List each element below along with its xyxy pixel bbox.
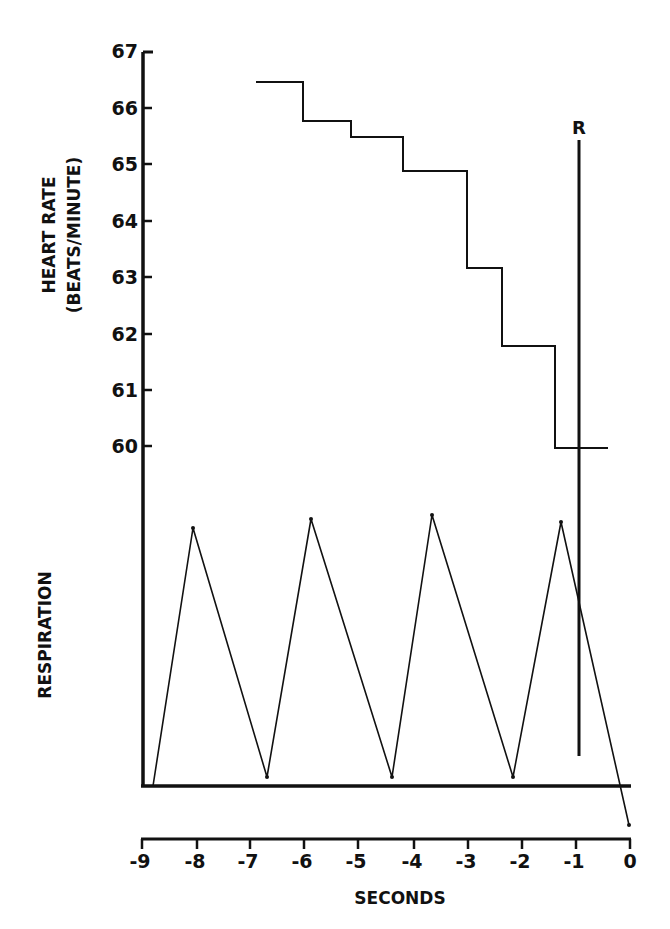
y-tick-65: 65 [112, 153, 138, 175]
y-tick-67: 67 [112, 40, 138, 62]
x-tick-neg4: -4 [401, 850, 422, 872]
chart: 67 66 65 64 63 62 61 60 HEART RATE (BEAT… [0, 0, 670, 929]
heart-rate-axis-title: HEART RATE [39, 177, 59, 294]
y-tick-63: 63 [112, 266, 138, 288]
x-tick-neg2: -2 [509, 850, 530, 872]
respiration-points [191, 513, 631, 827]
x-tick-neg1: -1 [563, 850, 584, 872]
respiration-axis-title: RESPIRATION [35, 571, 55, 698]
x-tick-neg5: -5 [345, 850, 366, 872]
heart-rate-step-line [256, 82, 608, 448]
x-tick-0: 0 [623, 850, 636, 872]
heart-rate-axis-subtitle: (BEATS/MINUTE) [64, 157, 84, 313]
y-tick-labels: 67 66 65 64 63 62 61 60 [112, 40, 138, 457]
x-tick-neg9: -9 [129, 850, 150, 872]
x-tick-neg8: -8 [184, 850, 205, 872]
x-tick-neg6: -6 [291, 850, 312, 872]
x-axis-title: SECONDS [354, 888, 445, 908]
y-tick-61: 61 [112, 379, 138, 401]
y-tick-60: 60 [112, 435, 138, 457]
r-marker-label: R [572, 117, 586, 138]
y-tick-62: 62 [112, 323, 138, 345]
r-marker: R [572, 117, 586, 756]
y-tick-64: 64 [112, 210, 138, 232]
y-axis [143, 52, 153, 787]
x-tick-neg7: -7 [237, 850, 258, 872]
x-tick-labels: -9 -8 -7 -6 -5 -4 -3 -2 -1 0 [129, 850, 636, 872]
x-axis [141, 839, 631, 849]
y-tick-66: 66 [112, 97, 138, 119]
x-tick-neg3: -3 [455, 850, 476, 872]
